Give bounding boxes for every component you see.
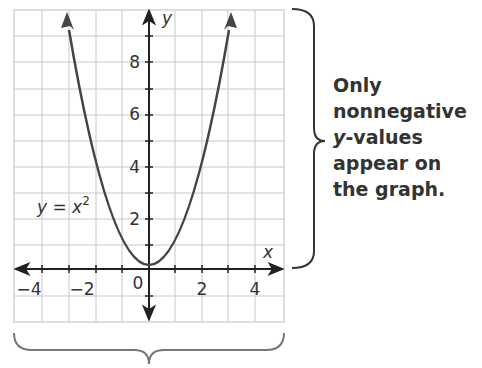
x-tick-neg4: −4 [16,279,41,299]
y-tick-6: 6 [129,104,140,124]
x-axis-label: x [262,242,274,262]
curve-label: y = x2 [36,194,90,217]
x-tick-neg2: −2 [69,279,94,299]
y-tick-4: 4 [129,157,140,177]
note-line-5: the graph. [333,176,467,202]
origin-label: 0 [133,273,144,293]
curve-arrow-left [61,12,74,30]
note-line-4: appear on [333,150,467,176]
x-tick-4: 4 [250,279,261,299]
y-tick-8: 8 [129,52,140,72]
note-line-2: nonnegative [333,98,467,124]
range-note: Only nonnegative y-values appear on the … [333,72,467,202]
bottom-brace [14,333,284,364]
y-axis-label: y [161,8,173,28]
right-brace [292,9,325,268]
x-tick-2: 2 [197,279,208,299]
curve-arrow-right [224,12,237,30]
note-line-3: y-values [333,124,467,150]
note-line-1: Only [333,72,467,98]
axes [16,11,282,319]
y-tick-2: 2 [129,209,140,229]
